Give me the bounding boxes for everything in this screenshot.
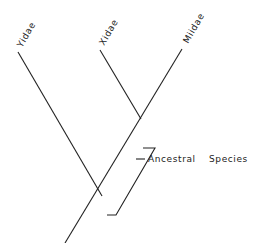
annotation-species: Species: [209, 154, 248, 164]
taxon-label-yidae: Yidae: [15, 20, 38, 50]
xidae-branch: [100, 50, 141, 119]
cladogram: Yidae Xidae Miidae Ancestral Species: [0, 0, 260, 243]
taxon-label-miidae: Miidae: [181, 11, 206, 45]
taxon-label-xidae: Xidae: [97, 17, 120, 47]
annotation-ancestral: Ancestral: [148, 154, 196, 164]
main-trunk-miidae-branch: [65, 49, 182, 243]
yidae-branch: [18, 52, 102, 196]
